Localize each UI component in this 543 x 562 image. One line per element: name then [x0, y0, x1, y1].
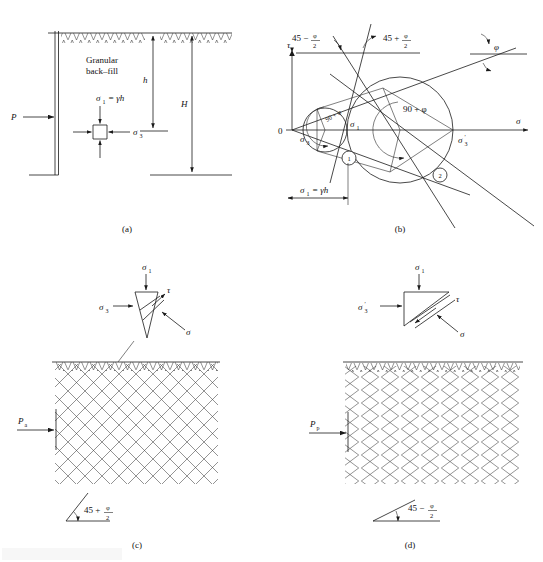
panel-a-sigma1-subscript: 1 — [103, 99, 106, 105]
panel-b-tau-axis-label: τ — [287, 40, 291, 50]
panel-a-sigma1-symbol: σ — [96, 93, 101, 103]
tau-axis-arrowhead — [289, 50, 295, 56]
ground-hatch-d — [346, 363, 520, 372]
panel-b-sigma1-symbol: σ — [350, 119, 355, 129]
backfill-label-line1: Granular — [86, 55, 118, 65]
panel-a: P σ 1 = γh σ 3 h H Granular back–fill — [10, 31, 232, 234]
panel-a-H-label: H — [180, 99, 188, 109]
panel-c-tau-label: τ — [167, 285, 171, 295]
panel-c-P-subscript: a — [25, 422, 28, 428]
panel-c-sigma-label: σ — [186, 327, 191, 337]
panel-d-caption: (d) — [405, 540, 416, 550]
radius-1-lower — [317, 130, 325, 151]
panel-c-sigma3-group: σ 3 — [99, 302, 109, 314]
panel-a-sigma1-label-group: σ 1 = γh — [96, 93, 125, 105]
panel-b-caption: (b) — [395, 224, 406, 234]
label-45-minus-phi-2: 45 − φ 2 — [292, 32, 320, 49]
panel-a-P-label: P — [10, 112, 17, 122]
panel-c-angle-denominator: 2 — [106, 514, 109, 521]
ground-hatch-c — [56, 362, 218, 371]
panel-d-angle-text: 45 − — [408, 503, 424, 513]
sigma-normal-arrow-d — [437, 315, 458, 332]
panel-b-sigma3-prime-group: σ 3 ′ — [458, 134, 468, 147]
panel-d: P p σ 1 σ 3 ′ τ σ 45 − — [309, 262, 523, 550]
pole-line-long-diagonal — [330, 74, 534, 226]
circle-marker-2: 2 — [433, 168, 447, 182]
panel-d-Pp-label-group: P p — [309, 419, 320, 431]
arc-phi-upper — [481, 34, 489, 44]
soil-element-square — [93, 125, 107, 139]
panel-d-sigma3-prime-group: σ 3 ′ — [358, 301, 368, 314]
panel-d-sigma1-symbol: σ — [415, 262, 420, 272]
panel-a-sigma3-symbol: σ — [133, 127, 138, 137]
panel-b: σ τ 0 — [278, 24, 534, 234]
backfill-label-line2: back–fill — [86, 66, 118, 76]
angle-right-numerator: φ — [404, 32, 408, 39]
panel-c-sigma3-subscript: 3 — [106, 308, 109, 314]
soil-hatch-c — [55, 364, 218, 484]
figure-root: P σ 1 = γh σ 3 h H Granular back–fill — [0, 0, 543, 562]
panel-b-sigma3p-subscript: 3 — [465, 141, 468, 147]
panel-b-sigma3-subscript: 3 — [307, 140, 310, 146]
panel-d-sigma3p-prime: ′ — [365, 301, 367, 307]
angle-arc-c — [74, 512, 78, 521]
angle-right-denominator: 2 — [404, 42, 407, 49]
sigma-normal-arrow-c — [162, 312, 185, 330]
arc-phi-lower — [483, 63, 491, 71]
panel-b-sigma3-symbol: σ — [300, 134, 305, 144]
panel-b-dim-symbol: σ — [300, 185, 305, 195]
panel-c-sigma1-subscript: 1 — [149, 268, 152, 274]
figure-canvas: P σ 1 = γh σ 3 h H Granular back–fill — [0, 0, 543, 562]
leader-line-c — [118, 341, 134, 362]
panel-c-sigma1-group: σ 1 — [142, 262, 152, 274]
panel-d-tau-label: τ — [456, 294, 460, 304]
panel-d-sigma3p-symbol: σ — [358, 302, 363, 312]
panel-c-caption: (c) — [132, 540, 142, 550]
panel-d-angle-denominator: 2 — [430, 512, 433, 519]
radius-2-lower — [390, 130, 400, 172]
panel-a-caption: (a) — [122, 224, 132, 234]
panel-c-angle-label-group: 45 + φ 2 — [84, 504, 113, 521]
panel-c-Pa-label-group: P a — [17, 416, 28, 428]
label-45-plus-phi-2: 45 + φ 2 — [383, 32, 411, 49]
panel-b-angle-90-phi-large: 90 + φ — [403, 104, 427, 114]
circle-marker-1: 1 — [342, 151, 356, 165]
arc-45-minus-phi-2 — [334, 40, 341, 50]
panel-b-origin-label: 0 — [278, 126, 283, 136]
panel-d-sigma-label: σ — [460, 329, 465, 339]
panel-d-angle-label-group: 45 − φ 2 — [408, 502, 437, 519]
panel-b-phi-label: φ — [494, 42, 499, 52]
angle-right-text: 45 + — [383, 33, 399, 43]
panel-b-sigma3p-symbol: σ — [458, 135, 463, 145]
panel-d-angle-numerator: φ — [430, 502, 434, 509]
panel-b-sigma-axis-label: σ — [516, 116, 521, 126]
panel-c-angle-text: 45 + — [84, 505, 100, 515]
angle-left-denominator: 2 — [313, 42, 316, 49]
circle-marker-1-text: 1 — [347, 155, 350, 162]
angle-left-numerator: φ — [313, 32, 317, 39]
soil-hatch-d — [345, 366, 520, 484]
stress-element-c — [135, 292, 158, 338]
ground-hatch-a — [61, 33, 232, 43]
panel-b-sigma1-group: σ 1 — [350, 119, 360, 131]
panel-c-sigma3-symbol: σ — [99, 302, 104, 312]
panel-c-P-symbol: P — [17, 416, 24, 426]
panel-b-sigma3p-prime: ′ — [465, 134, 467, 140]
panel-b-dim-equation: = γh — [312, 185, 329, 195]
panel-d-sigma3p-subscript: 3 — [365, 308, 368, 314]
angle-left-text: 45 − — [292, 33, 308, 43]
panel-a-sigma1-equation: = γh — [108, 93, 125, 103]
panel-d-sigma1-subscript: 1 — [422, 268, 425, 274]
circle-marker-2-text: 2 — [438, 172, 441, 179]
chord-2-lower — [390, 130, 453, 172]
panel-a-h-label: h — [143, 75, 148, 85]
panel-b-sigma1-subscript: 1 — [357, 125, 360, 131]
panel-d-sigma1-group: σ 1 — [415, 262, 425, 274]
page-scan-artifact — [2, 548, 122, 560]
panel-d-P-symbol: P — [309, 419, 316, 429]
panel-b-dim-label-group: σ 1 = γh — [300, 185, 329, 197]
radius-1-upper — [317, 109, 325, 130]
panel-a-sigma3-label-group: σ 3 — [133, 127, 143, 139]
panel-b-dim-subscript: 1 — [307, 191, 310, 197]
panel-a-sigma3-subscript: 3 — [140, 133, 143, 139]
